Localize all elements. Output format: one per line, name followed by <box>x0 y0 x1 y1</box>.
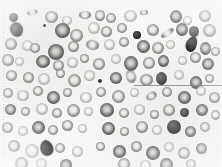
erythrocyte <box>52 108 62 118</box>
erythrocyte-pale <box>104 39 115 50</box>
erythrocyte-dense-rim <box>178 91 191 104</box>
erythrocyte <box>112 90 125 103</box>
erythrocyte <box>80 54 89 63</box>
erythrocyte-pale <box>18 126 28 136</box>
elongated-cell <box>27 9 39 17</box>
dense-cell <box>9 13 18 22</box>
erythrocyte-dense-rim <box>47 91 60 104</box>
erythrocyte-dense-rim <box>48 44 64 60</box>
erythrocyte <box>150 110 159 119</box>
erythrocyte <box>68 74 81 87</box>
erythrocyte-pale <box>72 146 83 157</box>
erythrocyte-dense-rim <box>196 143 207 154</box>
erythrocyte-dense-rim <box>176 23 188 36</box>
dense-cell <box>156 72 167 85</box>
horizontal-hairline <box>134 85 222 86</box>
erythrocyte-pale <box>164 142 174 152</box>
erythrocyte <box>79 11 91 19</box>
erythrocyte <box>200 122 210 132</box>
erythrocyte-pale <box>166 40 175 49</box>
erythrocyte-dense-rim <box>32 121 45 134</box>
erythrocyte-pale <box>152 125 162 135</box>
dense-cell <box>167 120 181 134</box>
erythrocyte <box>178 147 190 159</box>
erythrocyte-dense-rim <box>196 104 208 116</box>
erythrocyte-pale <box>178 56 187 65</box>
elongated-cell <box>145 90 158 102</box>
erythrocyte <box>95 10 105 21</box>
erythrocyte <box>15 157 28 167</box>
elongated-cell <box>85 39 100 51</box>
erythrocyte-pale <box>84 70 95 81</box>
erythrocyte-pale <box>78 124 87 133</box>
erythrocyte-dense-rim <box>113 145 126 158</box>
erythrocyte <box>118 158 130 167</box>
dense-cell-dark <box>133 31 141 39</box>
micrograph-viewport <box>0 0 222 167</box>
erythrocyte-pale <box>84 107 93 116</box>
erythrocyte-dense-rim <box>170 10 182 23</box>
erythrocyte <box>96 142 105 151</box>
cell-layer <box>0 0 222 167</box>
dense-cell <box>8 20 25 39</box>
erythrocyte-pale <box>17 90 29 101</box>
erythrocyte <box>152 42 164 54</box>
erythrocyte <box>5 38 17 50</box>
erythrocyte-dense-rim <box>36 55 50 68</box>
erythrocyte-pale <box>67 57 78 68</box>
erythrocyte <box>205 74 214 83</box>
erythrocyte <box>33 86 43 96</box>
elongated-cell <box>160 26 176 39</box>
erythrocyte <box>62 120 73 131</box>
erythrocyte-dense-rim <box>5 104 16 115</box>
erythrocyte-dense-rim <box>185 126 196 137</box>
erythrocyte <box>186 159 196 167</box>
erythrocyte-dense-rim <box>100 103 114 117</box>
erythrocyte-dense-rim <box>124 56 138 71</box>
erythrocyte-dense-rim <box>137 40 150 53</box>
platelet-speck <box>43 24 46 27</box>
teardrop-cell <box>184 35 199 54</box>
erythrocyte <box>56 69 65 78</box>
erythrocyte-pale <box>124 10 137 22</box>
erythrocyte <box>23 72 34 83</box>
elongated-cell <box>140 9 149 15</box>
erythrocyte-pale <box>36 158 47 167</box>
erythrocyte <box>119 108 129 118</box>
erythrocyte-pale <box>80 92 92 103</box>
erythrocyte <box>136 121 148 133</box>
erythrocyte-dense-rim <box>200 42 211 55</box>
erythrocyte-dense-rim <box>110 72 122 84</box>
erythrocyte-pale <box>15 57 24 66</box>
erythrocyte <box>147 24 159 36</box>
erythrocyte-pale <box>38 73 50 85</box>
erythrocyte-pale <box>111 54 121 64</box>
erythrocyte-dense-rim <box>102 122 115 135</box>
erythrocyte-dense-rim <box>158 55 169 67</box>
erythrocyte <box>3 88 13 98</box>
erythrocyte-pale <box>196 86 206 96</box>
erythrocyte <box>162 87 172 97</box>
erythrocyte-dense-rim <box>202 58 214 70</box>
erythrocyte <box>6 70 17 81</box>
erythrocyte <box>203 24 216 37</box>
left-margin-dotted-rule <box>3 2 4 165</box>
erythrocyte <box>106 13 116 23</box>
erythrocyte <box>68 41 79 52</box>
erythrocyte <box>67 104 80 117</box>
erythrocyte <box>48 125 58 135</box>
erythrocyte <box>30 43 40 53</box>
erythrocyte-pale <box>36 103 48 115</box>
erythrocyte-pale <box>25 144 39 158</box>
teardrop-cell <box>37 138 55 158</box>
erythrocyte-dense-rim <box>160 158 173 167</box>
dense-cell <box>180 108 189 117</box>
erythrocyte-dense-rim <box>60 159 72 167</box>
erythrocyte-pale <box>140 160 151 167</box>
erythrocyte <box>131 141 142 152</box>
erythrocyte <box>163 104 175 116</box>
erythrocyte <box>93 58 105 70</box>
erythrocyte <box>21 107 30 116</box>
platelet-speck <box>98 79 102 83</box>
erythrocyte <box>96 87 106 97</box>
